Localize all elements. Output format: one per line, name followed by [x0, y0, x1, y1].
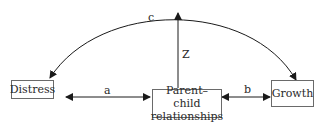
edge-label-z: Z — [182, 49, 190, 61]
node-distress-label: Distress — [10, 83, 55, 96]
node-growth-label: Growth — [272, 87, 314, 100]
node-distress: Distress — [11, 80, 54, 99]
path-diagram: Distress Parent–child relationships Grow… — [0, 0, 321, 125]
edge-label-b: b — [244, 84, 251, 96]
edge-label-a: a — [104, 85, 111, 97]
node-parent-child-relationships: Parent–child relationships — [152, 89, 222, 118]
edge-label-c: c — [148, 12, 154, 24]
node-parent-child-line1: Parent–child — [153, 84, 221, 110]
node-growth: Growth — [271, 80, 314, 107]
path-c-arc — [50, 20, 296, 80]
node-parent-child-line2: relationships — [151, 110, 223, 123]
